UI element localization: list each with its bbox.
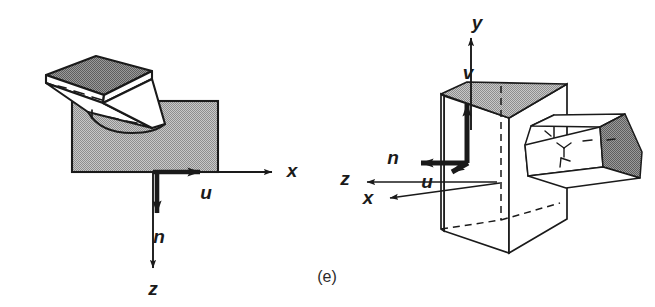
right-x-axis-label: x (362, 187, 375, 208)
right-n-label: n (387, 147, 399, 168)
left-u-label: u (200, 182, 212, 203)
left-x-axis-label: x (286, 160, 299, 181)
box-front-face (444, 96, 509, 253)
figure-container: x u z n y v n (0, 0, 655, 307)
left-n-label: n (153, 226, 165, 247)
left-z-axis-label: z (147, 278, 158, 299)
figure-e-diagram: x u z n y v n (0, 0, 655, 307)
right-v-label: v (463, 62, 475, 83)
right-z-axis-label: z (339, 168, 350, 189)
figure-caption: (e) (317, 268, 337, 285)
right-y-axis-label: y (471, 12, 484, 33)
